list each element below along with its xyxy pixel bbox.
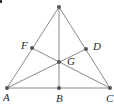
median-c-f <box>32 48 110 88</box>
label-c: C <box>106 92 114 104</box>
point-b <box>57 86 61 90</box>
point-f <box>30 46 34 50</box>
corner-mark <box>0 0 2 3</box>
point-apex <box>57 5 61 9</box>
side-apex-c <box>59 7 110 88</box>
point-d <box>84 47 88 51</box>
point-c <box>108 86 112 90</box>
triangle-diagram: A B C F D G <box>0 0 114 104</box>
label-b: B <box>56 92 63 104</box>
point-a <box>5 86 9 90</box>
label-a: A <box>2 91 10 103</box>
label-d: D <box>92 40 101 52</box>
label-f: F <box>20 39 28 51</box>
point-g <box>57 60 61 64</box>
label-g: G <box>67 55 75 67</box>
